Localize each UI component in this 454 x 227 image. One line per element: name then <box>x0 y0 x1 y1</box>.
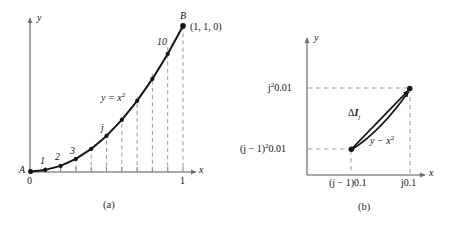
panel-b-guides <box>308 88 410 174</box>
panel-a-curve-eq-exponent: 2 <box>122 91 126 99</box>
panel-b-x-tick-left-rest: − 1)0.1 <box>335 177 366 188</box>
panel-a-node-label-1: 1 <box>40 156 45 166</box>
panel-a-point-b-label: B <box>180 11 186 21</box>
panel-b-y-axis-label: y <box>314 33 318 43</box>
panel-b-y-tick-upper-label: j20.01 <box>268 82 292 93</box>
panel-a-caption: (a) <box>103 200 115 211</box>
panel-b-curve-eq-exponent: 2 <box>391 134 395 142</box>
figure-container: y x A 0 1 B (1, 1, 0) 1 2 3 j 10 y = x2 … <box>0 0 454 227</box>
panel-b-caption: (b) <box>358 202 370 213</box>
panel-b-y-tick-lower-value: 0.01 <box>269 143 287 154</box>
panel-a-node-label-10: 10 <box>157 37 167 47</box>
panel-b-graphics <box>307 38 425 175</box>
panel-b-x-axis-label: x <box>429 168 433 178</box>
panel-b-y-tick-upper-value: 0.01 <box>274 82 292 93</box>
panel-a-node-label-3: 3 <box>70 146 75 156</box>
figure-canvas <box>0 0 454 227</box>
panel-b-x-tick-right-rest: 0.1 <box>404 177 417 188</box>
panel-b-delta-vector-label: ΔIj <box>348 108 360 121</box>
panel-b-x-tick-right-label: j0.1 <box>401 178 416 188</box>
panel-b-y-tick-lower-label: (j − 1)20.01 <box>240 143 286 154</box>
panel-b-y-tick-lower-minus: − 1) <box>246 143 265 154</box>
panel-a-point-a-label: A <box>19 165 25 175</box>
panel-a-node-label-2: 2 <box>55 152 60 162</box>
panel-b-curve-equation-label: y − x2 <box>370 135 394 146</box>
panel-a-point-b-coords: (1, 1, 0) <box>190 22 222 32</box>
panel-a-origin-label: 0 <box>27 176 32 186</box>
panel-b-x-tick-left-label: (j − 1)0.1 <box>329 178 367 188</box>
panel-a-curve-equation-label: y = x2 <box>101 92 125 103</box>
panel-a-x-end-label: 1 <box>180 176 185 186</box>
panel-a-curve-eq-rest: = x <box>105 92 121 103</box>
panel-b-curve-eq-rest: − x <box>374 135 390 146</box>
panel-a-x-axis-label: x <box>199 165 203 175</box>
panel-b-delta-subscript: j <box>358 113 360 121</box>
panel-a-y-axis-label: y <box>37 13 41 23</box>
panel-a-node-label-j: j <box>101 123 104 133</box>
